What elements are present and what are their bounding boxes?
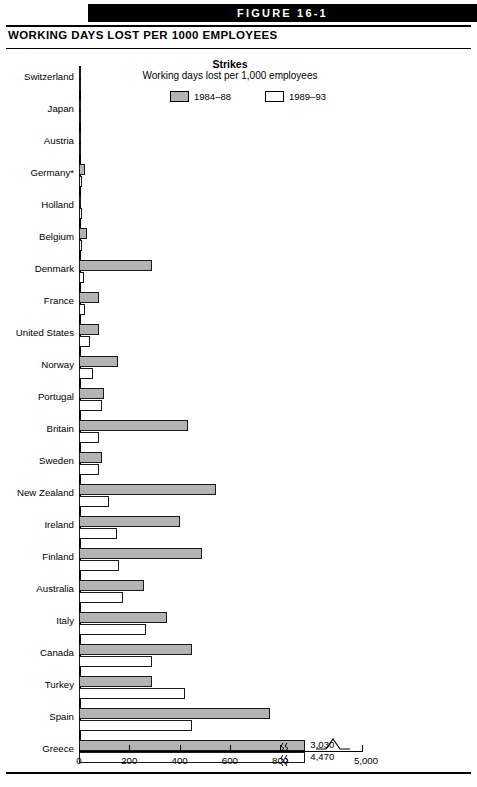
bar-1984-88-holland [79, 196, 81, 207]
figure-number-label: FIGURE 16-1 [88, 4, 477, 22]
bar-1989-93-france [79, 304, 85, 315]
category-label-spain: Spain [0, 711, 74, 722]
bar-row: Belgium [0, 226, 477, 258]
bar-break-marker [280, 740, 289, 751]
bar-1984-88-united-states [79, 324, 99, 335]
category-label-new-zealand: New Zealand [0, 487, 74, 498]
bar-1984-88-turkey [79, 676, 152, 687]
bar-1984-88-denmark [79, 260, 152, 271]
bar-1989-93-sweden [79, 464, 99, 475]
header-rule-middle [6, 48, 471, 49]
bar-1984-88-spain [79, 708, 270, 719]
bar-1989-93-australia [79, 592, 123, 603]
category-label-germany: Germany* [0, 167, 74, 178]
bar-1989-93-spain [79, 720, 192, 731]
bar-row: Ireland [0, 514, 477, 546]
legend-label-1989-93: 1989–93 [289, 91, 326, 102]
bar-1989-93-japan [79, 112, 81, 123]
bar-1989-93-finland [79, 560, 119, 571]
chart-subtitle: Working days lost per 1,000 employees [60, 70, 400, 81]
category-label-finland: Finland [0, 551, 74, 562]
bar-1989-93-norway [79, 368, 93, 379]
bar-1989-93-canada [79, 656, 152, 667]
axis-break-marker [316, 736, 350, 754]
bar-1984-88-ireland [79, 516, 180, 527]
x-tick-label: 0 [76, 755, 81, 766]
category-label-ireland: Ireland [0, 519, 74, 530]
x-tick [362, 745, 363, 752]
bar-1984-88-finland [79, 548, 202, 559]
bar-row: Australia [0, 578, 477, 610]
bar-row: Austria [0, 130, 477, 162]
x-tick [230, 745, 231, 752]
bar-1984-88-italy [79, 612, 167, 623]
bar-1989-93-new-zealand [79, 496, 109, 507]
category-label-belgium: Belgium [0, 231, 74, 242]
bar-row: Italy [0, 610, 477, 642]
bar-row: Germany* [0, 162, 477, 194]
bar-1989-93-greece [79, 752, 305, 763]
category-label-japan: Japan [0, 103, 74, 114]
bar-1989-93-portugal [79, 400, 102, 411]
category-label-australia: Australia [0, 583, 74, 594]
x-tick [129, 745, 130, 752]
bar-row: New Zealand [0, 482, 477, 514]
bar-row: France [0, 290, 477, 322]
category-label-sweden: Sweden [0, 455, 74, 466]
x-tick-label: 800 [272, 755, 288, 766]
legend-swatch-1984-88 [170, 91, 189, 102]
bar-row: Portugal [0, 386, 477, 418]
bar-1984-88-france [79, 292, 99, 303]
bar-1984-88-austria [79, 132, 81, 143]
category-label-france: France [0, 295, 74, 306]
legend-label-1984-88: 1984–88 [194, 91, 231, 102]
bar-1989-93-holland [79, 208, 82, 219]
bar-1984-88-belgium [79, 228, 87, 239]
bar-1984-88-portugal [79, 388, 104, 399]
figure-title: WORKING DAYS LOST PER 1000 EMPLOYEES [8, 29, 278, 41]
category-label-norway: Norway [0, 359, 74, 370]
bar-1989-93-denmark [79, 272, 84, 283]
figure-banner-bar: FIGURE 16-1 [88, 4, 477, 22]
bar-row: Greece3,0304,470 [0, 738, 477, 770]
x-tick [180, 745, 181, 752]
bar-1984-88-norway [79, 356, 118, 367]
bar-row: Denmark [0, 258, 477, 290]
legend-swatch-1989-93 [265, 91, 284, 102]
y-axis-line [79, 66, 81, 752]
category-label-italy: Italy [0, 615, 74, 626]
category-label-britain: Britain [0, 423, 74, 434]
x-tick-label: 200 [121, 755, 137, 766]
bar-row: Spain [0, 706, 477, 738]
bar-1989-93-germany [79, 176, 82, 187]
bar-1989-93-italy [79, 624, 146, 635]
bar-1989-93-switzerland [79, 80, 81, 91]
footer-rule [6, 772, 471, 774]
figure-banner: FIGURE 16-1 [0, 4, 477, 22]
bar-row: Finland [0, 546, 477, 578]
bar-1989-93-britain [79, 432, 99, 443]
bar-break-marker [280, 752, 289, 763]
legend-item-1989-93: 1989–93 [265, 91, 326, 102]
category-label-united-states: United States [0, 327, 74, 338]
bar-1989-93-austria [79, 144, 81, 155]
legend-item-1984-88: 1984–88 [170, 91, 231, 102]
bar-row: Japan [0, 98, 477, 130]
bar-row: Canada [0, 642, 477, 674]
category-label-holland: Holland [0, 199, 74, 210]
bar-1984-88-japan [79, 100, 81, 111]
bar-value-label: 3,030 [310, 739, 334, 750]
bar-1984-88-australia [79, 580, 144, 591]
category-label-portugal: Portugal [0, 391, 74, 402]
category-label-greece: Greece [0, 743, 74, 754]
bar-row: Turkey [0, 674, 477, 706]
chart-title: Strikes [80, 58, 380, 70]
x-tick-label: 400 [172, 755, 188, 766]
header-rule-top [6, 25, 471, 27]
bar-1989-93-ireland [79, 528, 117, 539]
category-label-turkey: Turkey [0, 679, 74, 690]
bar-1989-93-united-states [79, 336, 90, 347]
bar-row: Sweden [0, 450, 477, 482]
bar-row: Norway [0, 354, 477, 386]
bar-1984-88-sweden [79, 452, 102, 463]
